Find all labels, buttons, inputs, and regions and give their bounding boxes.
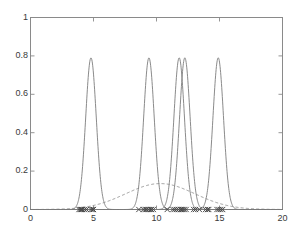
x-tick-label: 0 <box>19 214 43 223</box>
axis-ticks <box>31 18 283 210</box>
x-tick-label: 10 <box>145 214 169 223</box>
curve-component-3 <box>31 58 283 210</box>
curve-component-5 <box>31 58 283 210</box>
y-tick-label: 0.6 <box>4 89 28 98</box>
y-axis-labels: 00.20.40.60.81 <box>0 0 28 245</box>
y-tick-label: 0.4 <box>4 128 28 137</box>
y-tick-label: 0.8 <box>4 51 28 60</box>
y-tick-label: 0 <box>4 205 28 214</box>
x-tick-label: 15 <box>208 214 232 223</box>
curve-group <box>31 58 283 210</box>
y-tick-label: 1 <box>4 13 28 22</box>
y-tick-label: 0.2 <box>4 166 28 175</box>
x-tick-label: 5 <box>82 214 106 223</box>
curve-component-2 <box>31 58 283 210</box>
chart-figure: 00.20.40.60.81 05101520 <box>0 0 298 245</box>
curve-component-4 <box>31 58 283 210</box>
curve-component-1 <box>31 58 283 210</box>
x-tick-label: 20 <box>271 214 295 223</box>
plot-canvas <box>0 0 298 245</box>
